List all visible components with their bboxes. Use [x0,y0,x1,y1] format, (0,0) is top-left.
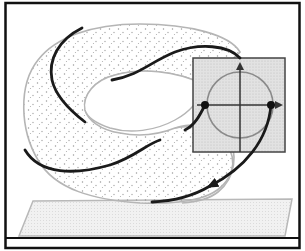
intersection-point-left [201,101,209,109]
torus-hole [85,71,205,131]
intersection-point-right [267,101,275,109]
torus-poincare-diagram [0,0,305,251]
floor-plane [19,199,292,236]
figure [0,0,305,251]
